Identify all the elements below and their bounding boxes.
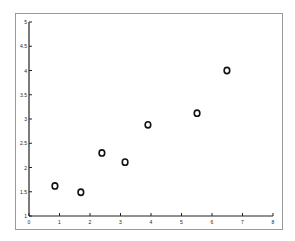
x-axis-ticks: 012345678 bbox=[28, 213, 275, 225]
data-point-marker bbox=[224, 67, 230, 73]
data-point-marker bbox=[99, 150, 105, 156]
x-tick-label: 0 bbox=[28, 219, 31, 225]
data-point-marker bbox=[194, 110, 200, 116]
scatter-chart: 012345678 11.522.533.544.55 bbox=[0, 0, 295, 241]
data-point-marker bbox=[145, 122, 151, 128]
y-tick-label: 4 bbox=[24, 68, 27, 74]
y-tick-label: 2.5 bbox=[20, 140, 27, 146]
data-point-marker bbox=[78, 189, 84, 195]
y-tick-label: 3.5 bbox=[20, 92, 27, 98]
y-axis-ticks: 11.522.533.544.55 bbox=[20, 19, 32, 219]
x-tick-label: 3 bbox=[119, 219, 122, 225]
data-point-marker bbox=[122, 159, 128, 165]
x-tick-label: 5 bbox=[180, 219, 183, 225]
x-tick-label: 6 bbox=[211, 219, 214, 225]
y-tick-label: 5 bbox=[24, 19, 27, 25]
y-tick-label: 3 bbox=[24, 116, 27, 122]
x-tick-label: 7 bbox=[241, 219, 244, 225]
y-tick-label: 1.5 bbox=[20, 189, 27, 195]
data-point-marker bbox=[52, 183, 58, 189]
y-tick-label: 1 bbox=[24, 213, 27, 219]
x-tick-label: 4 bbox=[150, 219, 153, 225]
x-tick-label: 8 bbox=[272, 219, 275, 225]
x-tick-label: 2 bbox=[89, 219, 92, 225]
axes bbox=[29, 22, 273, 216]
data-points bbox=[52, 67, 230, 195]
y-tick-label: 4.5 bbox=[20, 43, 27, 49]
x-tick-label: 1 bbox=[58, 219, 61, 225]
y-tick-label: 2 bbox=[24, 165, 27, 171]
